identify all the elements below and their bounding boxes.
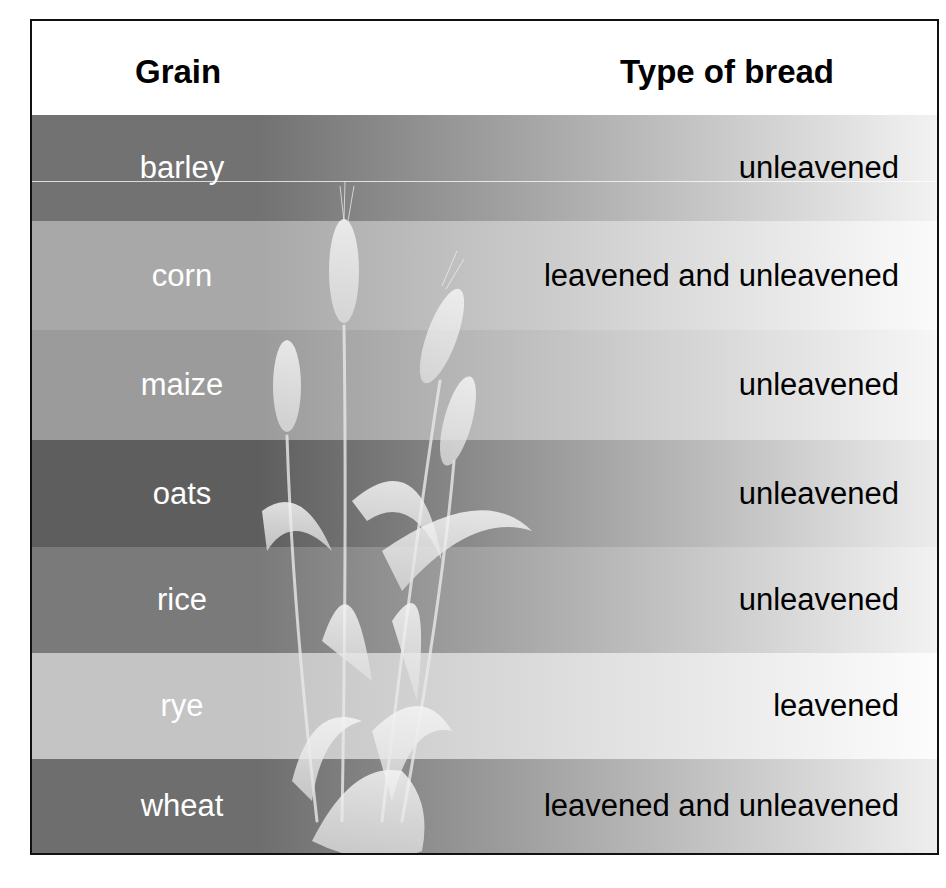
- table-row: wheat leavened and unleavened: [32, 759, 937, 853]
- grain-bread-table: Grain Type of bread barley unleavened co…: [30, 19, 939, 855]
- bread-type-cell: unleavened: [739, 582, 899, 618]
- grain-cell: rice: [32, 582, 332, 618]
- table-row: maize unleavened: [32, 330, 937, 440]
- grain-cell: wheat: [32, 788, 332, 824]
- bread-type-cell: leavened and unleavened: [544, 788, 899, 824]
- bread-type-cell: leavened and unleavened: [544, 258, 899, 294]
- bread-type-cell: unleavened: [739, 150, 899, 186]
- bread-type-cell: leavened: [773, 688, 899, 724]
- table-row: barley unleavened: [32, 115, 937, 221]
- grain-cell: rye: [32, 688, 332, 724]
- grain-cell: corn: [32, 258, 332, 294]
- bread-type-cell: unleavened: [739, 367, 899, 403]
- table-row: rye leavened: [32, 653, 937, 759]
- table-row: oats unleavened: [32, 440, 937, 547]
- header-type-of-bread: Type of bread: [620, 53, 834, 91]
- table-body: barley unleavened corn leavened and unle…: [32, 115, 937, 853]
- table-row: corn leavened and unleavened: [32, 221, 937, 330]
- header-grain: Grain: [135, 53, 221, 91]
- table-row: rice unleavened: [32, 547, 937, 653]
- table-header: Grain Type of bread: [32, 21, 937, 115]
- grain-cell: oats: [32, 476, 332, 512]
- grain-cell: maize: [32, 367, 332, 403]
- bread-type-cell: unleavened: [739, 476, 899, 512]
- grain-cell: barley: [32, 150, 332, 186]
